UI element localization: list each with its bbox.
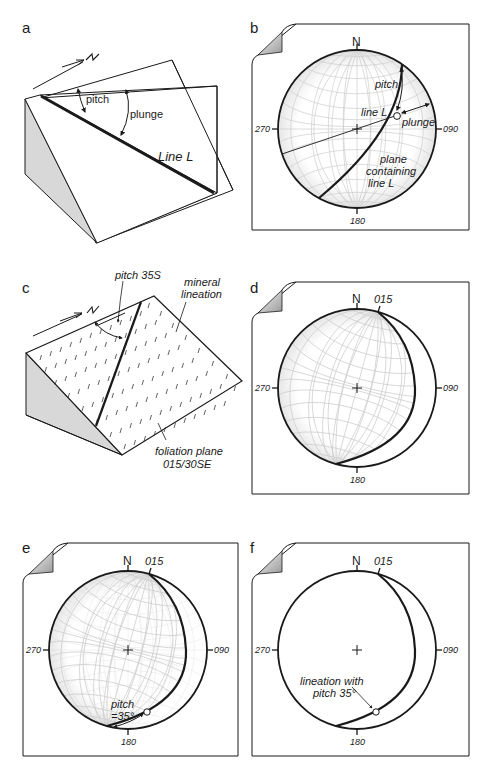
north-label: N — [352, 35, 361, 49]
west-label: 270 — [25, 645, 41, 655]
strike-label: 015 — [145, 555, 164, 567]
west-label: 270 — [254, 645, 270, 655]
page-curl-icon — [258, 290, 282, 313]
pitch-label: pitch — [86, 93, 109, 105]
south-label: 180 — [350, 737, 365, 747]
pitch-label-2: =35° — [111, 710, 135, 722]
mineral-label-1: mineral — [184, 276, 221, 288]
east-label: 090 — [214, 645, 229, 655]
line-l-label: line L — [361, 106, 387, 118]
south-label: 180 — [350, 216, 365, 226]
panel-a-letter: a — [22, 19, 31, 36]
pitch-label-1: pitch — [110, 698, 134, 710]
line-l-label: Line L — [158, 149, 193, 164]
panel-b: b N 090 180 270 pitch — [250, 19, 469, 230]
page-curl-icon — [258, 32, 282, 55]
lineation-label-2: pitch 35° — [312, 687, 357, 699]
lineation-point — [373, 709, 379, 715]
panel-c-letter: c — [22, 279, 30, 296]
foliation-label-2: 015/30SE — [163, 458, 212, 470]
lineation-point — [144, 709, 150, 715]
panel-d: d N 015 090 180 270 — [250, 279, 469, 494]
plunge-label: plunge — [130, 108, 163, 120]
page-curl-icon — [29, 551, 53, 574]
panel-e-letter: e — [22, 539, 30, 556]
pitch-label: pitch — [374, 78, 398, 90]
panel-d-letter: d — [250, 279, 258, 296]
south-label: 180 — [350, 475, 365, 485]
east-label: 090 — [443, 645, 458, 655]
strike-label: 015 — [374, 293, 393, 305]
south-label: 180 — [121, 737, 136, 747]
panel-a: a pitch plunge Line L — [22, 19, 233, 243]
foliation-label-1: foliation plane — [155, 445, 223, 457]
page-curl-icon — [258, 551, 282, 574]
plunge-label: plunge — [401, 116, 435, 128]
west-label: 270 — [254, 124, 270, 134]
strike-label: 015 — [374, 555, 393, 567]
east-label: 090 — [443, 124, 458, 134]
north-label: N — [352, 292, 361, 306]
panel-c: c pitch 35S mineral — [22, 269, 242, 470]
pitch-label: pitch 35S — [114, 269, 162, 281]
panel-f-letter: f — [250, 539, 255, 556]
panel-e: e N 015 090 180 270 pitch — [22, 539, 238, 756]
figure-canvas: a pitch plunge Line L b — [0, 0, 492, 769]
plane-label-1: plane — [379, 153, 407, 165]
lineation-label-1: lineation with — [300, 675, 364, 687]
plane-label-3: line L — [368, 177, 394, 189]
north-label: N — [352, 554, 361, 568]
east-label: 090 — [443, 383, 458, 393]
line-l-point — [394, 113, 401, 120]
mineral-label-2: lineation — [181, 288, 222, 300]
plane-label-2: containing — [366, 165, 417, 177]
north-label: N — [123, 554, 132, 568]
panel-f: f N 015 090 180 270 lineation with pitch… — [250, 539, 469, 756]
panel-b-letter: b — [250, 19, 258, 36]
west-label: 270 — [254, 383, 270, 393]
